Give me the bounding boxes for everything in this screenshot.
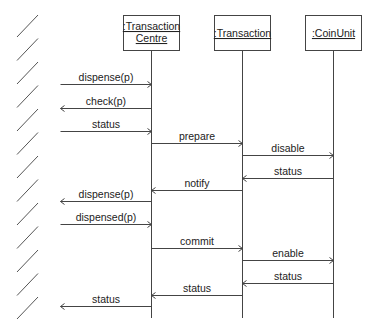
hatch-stroke xyxy=(17,86,38,108)
hatch-stroke xyxy=(17,227,38,249)
message-label: status xyxy=(183,282,211,294)
sequence-diagram: :TransactionCentre:Transaction:CoinUnit … xyxy=(0,0,381,331)
hatch-stroke xyxy=(17,133,38,155)
object-label: Centre xyxy=(136,32,168,44)
message-label: dispense(p) xyxy=(79,71,134,83)
hatch-stroke xyxy=(17,15,38,37)
message-label: check(p) xyxy=(86,95,126,107)
message-label: status xyxy=(274,270,302,282)
message-prepare: prepare xyxy=(152,130,243,147)
lifelines xyxy=(152,51,334,318)
object-label: :CoinUnit xyxy=(312,27,355,39)
hatch-stroke xyxy=(17,203,38,225)
hatch-stroke xyxy=(17,250,38,272)
object-boxes: :TransactionCentre:Transaction:CoinUnit xyxy=(123,16,362,51)
message-label: disable xyxy=(271,142,304,154)
message-status: status xyxy=(243,165,334,182)
message-label: notify xyxy=(184,177,210,189)
message-status: status xyxy=(61,293,152,310)
hatch-stroke xyxy=(17,297,38,319)
environment-boundary-hatch xyxy=(17,15,38,319)
object-tr: :Transaction xyxy=(214,16,272,51)
message-label: commit xyxy=(180,235,214,247)
message-dispensep: dispense(p) xyxy=(61,188,152,205)
hatch-stroke xyxy=(17,109,38,131)
message-dispensep: dispense(p) xyxy=(61,71,152,88)
message-label: status xyxy=(274,165,302,177)
message-label: dispense(p) xyxy=(79,188,134,200)
message-status: status xyxy=(61,118,152,135)
hatch-stroke xyxy=(17,39,38,61)
object-label: :Transaction xyxy=(123,20,181,32)
message-disable: disable xyxy=(243,142,334,159)
message-enable: enable xyxy=(243,247,334,264)
hatch-stroke xyxy=(17,274,38,296)
messages: dispense(p)check(p)statuspreparedisables… xyxy=(61,71,334,310)
message-label: status xyxy=(92,118,120,130)
message-label: prepare xyxy=(179,130,215,142)
message-label: dispensed(p) xyxy=(76,211,137,223)
hatch-stroke xyxy=(17,180,38,202)
object-label: :Transaction xyxy=(214,27,272,39)
hatch-stroke xyxy=(17,62,38,84)
message-commit: commit xyxy=(152,235,243,252)
message-checkp: check(p) xyxy=(61,95,152,112)
message-label: status xyxy=(92,293,120,305)
message-dispensedp: dispensed(p) xyxy=(61,211,152,228)
message-status: status xyxy=(243,270,334,287)
message-status: status xyxy=(152,282,243,299)
object-tc: :TransactionCentre xyxy=(123,16,181,51)
message-label: enable xyxy=(272,247,304,259)
object-cu: :CoinUnit xyxy=(306,16,362,51)
message-notify: notify xyxy=(152,177,243,194)
hatch-stroke xyxy=(17,156,38,178)
